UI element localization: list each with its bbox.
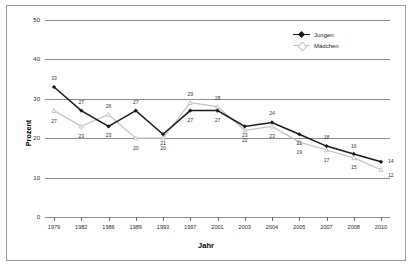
value-label-madchen-2004: 23 (269, 133, 275, 139)
x-tick-label-2003: 2003 (239, 224, 251, 230)
legend-label: Jungen (314, 32, 334, 38)
marker-maedchen-2007 (325, 148, 329, 152)
x-tick-label-2004: 2004 (266, 224, 278, 230)
y-tick-label-0: 0 (37, 214, 40, 220)
value-label-madchen-2003: 22 (242, 137, 248, 143)
legend-swatch-icon (293, 42, 310, 50)
x-tick-2005 (299, 217, 300, 221)
value-label-jungen-2008: 16 (351, 143, 357, 149)
value-label-madchen-1997: 29 (187, 91, 193, 97)
y-tick-label-40: 40 (33, 56, 40, 62)
value-label-jungen-1986: 23 (106, 132, 112, 138)
marker-maedchen-2001 (216, 105, 220, 109)
value-label-madchen-1979: 27 (51, 118, 57, 124)
value-label-jungen-2007: 18 (324, 134, 330, 140)
y-tick-label-30: 30 (33, 96, 40, 102)
value-label-madchen-2010: 12 (388, 172, 394, 178)
value-label-jungen-2005: 21 (296, 140, 302, 146)
x-tick-label-1997: 1997 (184, 224, 196, 230)
x-tick-2001 (218, 217, 219, 221)
marker-jungen-2005 (297, 132, 301, 136)
x-tick-1993 (163, 217, 164, 221)
x-tick-1989 (136, 217, 137, 221)
value-label-madchen-2005: 19 (296, 149, 302, 155)
x-tick-label-2010: 2010 (375, 224, 387, 230)
x-tick-label-1993: 1993 (157, 224, 169, 230)
x-tick-label-2001: 2001 (211, 224, 223, 230)
y-tick-label-20: 20 (33, 135, 40, 141)
marker-maedchen-1986 (107, 113, 111, 117)
x-tick-label-1979: 1979 (48, 224, 60, 230)
legend-item-madchen[interactable]: Mädchen (293, 40, 339, 51)
marker-jungen-2004 (270, 120, 274, 124)
value-label-jungen-2010: 14 (388, 158, 394, 164)
x-tick-2007 (327, 217, 328, 221)
x-tick-1979 (54, 217, 55, 221)
x-tick-label-2005: 2005 (293, 224, 305, 230)
marker-maedchen-2010 (379, 168, 383, 172)
x-tick-label-1989: 1989 (130, 224, 142, 230)
chart-container: Prozent Jahr 01020304050 197919821986198… (6, 5, 406, 261)
marker-jungen-2010 (379, 160, 383, 164)
legend: JungenMädchen (293, 29, 339, 51)
legend-swatch-icon (293, 31, 310, 39)
y-tick-label-10: 10 (33, 175, 40, 181)
marker-maedchen-2004 (270, 124, 274, 128)
value-label-jungen-1997: 27 (187, 117, 193, 123)
x-tick-label-1982: 1982 (75, 224, 87, 230)
x-tick-label-2007: 2007 (320, 224, 332, 230)
marker-maedchen-1979 (52, 109, 56, 113)
x-axis-title: Jahr (7, 241, 405, 250)
value-label-madchen-2001: 28 (215, 95, 221, 101)
y-axis-title: Prozent (24, 120, 33, 146)
value-label-jungen-2001: 27 (215, 117, 221, 123)
series-line-mädchen (54, 103, 381, 170)
value-label-jungen-1982: 27 (78, 99, 84, 105)
x-tick-1997 (190, 217, 191, 221)
marker-jungen-2008 (352, 152, 356, 156)
value-label-madchen-1986: 26 (106, 103, 112, 109)
x-tick-label-2008: 2008 (348, 224, 360, 230)
marker-maedchen-1997 (188, 101, 192, 105)
x-tick-2003 (245, 217, 246, 221)
y-tick-label-50: 50 (33, 17, 40, 23)
legend-label: Mädchen (314, 43, 339, 49)
x-tick-1986 (109, 217, 110, 221)
legend-item-jungen[interactable]: Jungen (293, 29, 339, 40)
value-label-jungen-1989: 27 (133, 99, 139, 105)
value-label-jungen-1979: 33 (51, 75, 57, 81)
value-label-madchen-2008: 15 (351, 164, 357, 170)
x-tick-label-1986: 1986 (102, 224, 114, 230)
value-label-madchen-1989: 20 (133, 145, 139, 151)
x-tick-2008 (354, 217, 355, 221)
marker-jungen-2007 (324, 144, 328, 148)
marker-maedchen-2008 (352, 156, 356, 160)
x-tick-1982 (81, 217, 82, 221)
value-label-jungen-2004: 24 (269, 110, 275, 116)
x-tick-2004 (272, 217, 273, 221)
x-tick-2010 (381, 217, 382, 221)
value-label-madchen-1993: 20 (160, 145, 166, 151)
value-label-madchen-2007: 17 (324, 157, 330, 163)
value-label-madchen-1982: 23 (78, 133, 84, 139)
